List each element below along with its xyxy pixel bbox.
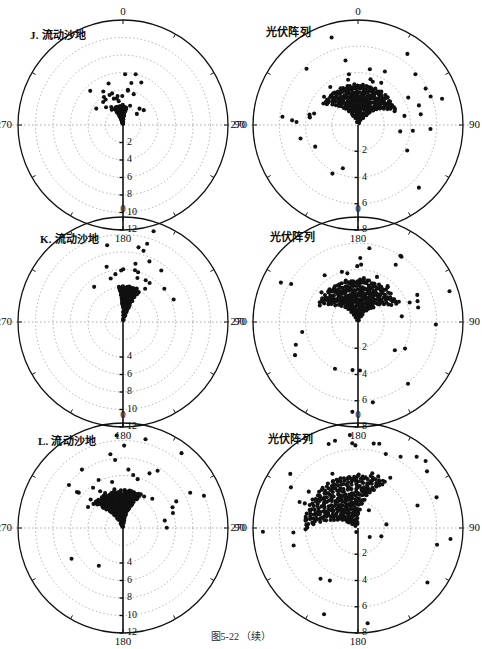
scatter-points xyxy=(92,229,176,322)
radial-tick-2: 2 xyxy=(362,341,367,352)
radial-axis xyxy=(355,528,359,633)
panel-title-k-left: K. 流动沙地 xyxy=(40,230,99,246)
polar-panel-l-right: 0901802702468光伏阵列 xyxy=(215,399,482,649)
angular-tick-270: 270 xyxy=(223,118,247,130)
scatter-points xyxy=(67,433,206,567)
radial-tick-4: 4 xyxy=(127,556,132,567)
panel-title-l-right: 光伏阵列 xyxy=(268,430,313,446)
panel-title-k-right: 光伏阵列 xyxy=(270,228,315,244)
radial-tick-8: 8 xyxy=(127,591,132,602)
angular-tick-270: 270 xyxy=(223,315,247,327)
radial-tick-4: 4 xyxy=(127,350,132,361)
angular-tick-0: 0 xyxy=(109,408,137,420)
angular-tick-0: 0 xyxy=(109,5,137,17)
radial-tick-4: 4 xyxy=(362,368,367,379)
angular-tick-90: 90 xyxy=(469,521,480,533)
radial-tick-6: 6 xyxy=(127,171,132,182)
figure-caption: 图5-22 （续） xyxy=(0,628,482,643)
angular-tick-0: 0 xyxy=(109,202,137,214)
radial-tick-4: 4 xyxy=(362,574,367,585)
angular-tick-270: 270 xyxy=(0,118,12,130)
radial-tick-10: 10 xyxy=(127,609,137,620)
panel-title-j-right: 光伏阵列 xyxy=(266,23,311,39)
scatter-points xyxy=(88,72,146,126)
radial-axis xyxy=(120,528,124,633)
scatter-points xyxy=(279,246,452,414)
radial-tick-8: 8 xyxy=(127,385,132,396)
scatter-points xyxy=(280,35,444,189)
angular-tick-270: 270 xyxy=(0,521,12,533)
angular-tick-90: 90 xyxy=(469,118,480,130)
radial-tick-2: 2 xyxy=(362,144,367,155)
radial-tick-6: 6 xyxy=(127,368,132,379)
radial-tick-2: 2 xyxy=(362,547,367,558)
radial-tick-4: 4 xyxy=(362,171,367,182)
panel-title-j-left: J. 流动沙地 xyxy=(30,26,86,42)
scatter-points xyxy=(261,433,453,625)
angular-tick-270: 270 xyxy=(223,521,247,533)
radial-tick-6: 6 xyxy=(362,600,367,611)
angular-tick-90: 90 xyxy=(469,315,480,327)
angular-tick-270: 270 xyxy=(0,315,12,327)
angular-tick-0: 0 xyxy=(344,202,372,214)
panel-title-l-left: L. 流动沙地 xyxy=(38,432,96,448)
radial-tick-2: 2 xyxy=(127,136,132,147)
polar-plot-l-right xyxy=(215,399,482,649)
angular-tick-0: 0 xyxy=(344,408,372,420)
radial-tick-6: 6 xyxy=(127,574,132,585)
angular-tick-0: 0 xyxy=(344,5,372,17)
radial-tick-4: 4 xyxy=(127,153,132,164)
